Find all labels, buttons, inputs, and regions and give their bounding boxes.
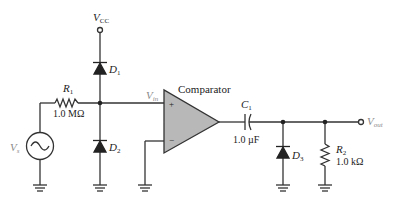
vout-label: Vout (367, 116, 383, 129)
d2-label: D2 (109, 142, 120, 155)
d1-label: D1 (109, 64, 120, 77)
r2-value: 1.0 kΩ (336, 157, 363, 167)
vcc-label: VCC (93, 12, 109, 25)
r1-value: 1.0 MΩ (53, 109, 84, 119)
c1-value: 1.0 µF (233, 135, 259, 145)
comparator-label: Comparator (178, 84, 231, 95)
vcc-terminal (98, 28, 103, 33)
d3-label: D3 (292, 150, 303, 163)
schematic (0, 0, 396, 207)
vout-terminal (359, 120, 364, 125)
c1-label: C1 (241, 99, 252, 112)
vin-label: Vin (146, 90, 158, 103)
minus-input-label: − (169, 136, 174, 145)
vs-label: Vs (10, 142, 19, 155)
circuit-diagram: VCC D1 R1 1.0 MΩ Vs D2 Vin Comparator + … (0, 0, 396, 207)
r1-label: R1 (63, 83, 73, 96)
plus-input-label: + (169, 100, 174, 109)
